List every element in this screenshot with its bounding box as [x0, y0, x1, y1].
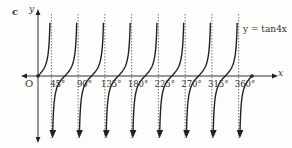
origin-point: [36, 74, 40, 78]
x-tick-label: 315°: [208, 79, 228, 89]
tan-branch: [38, 23, 50, 76]
x-tick-label: 135°: [101, 79, 121, 89]
x-tick-label: 90°: [77, 79, 92, 89]
x-tick-label: 360°: [235, 79, 255, 89]
end-point-360: [250, 74, 254, 78]
x-tick-labels: 45°90°135°180°225°270°315°360°: [50, 79, 255, 89]
x-tick-label: 270°: [181, 79, 201, 89]
tan4x-graph-figure: c y y = tan4x x O 45°90°135°180°225°270°…: [0, 0, 292, 148]
x-tick-label: 225°: [155, 79, 175, 89]
x-tick-label: 180°: [128, 79, 148, 89]
plot-area: 45°90°135°180°225°270°315°360°: [0, 0, 292, 148]
x-tick-label: 45°: [50, 79, 65, 89]
